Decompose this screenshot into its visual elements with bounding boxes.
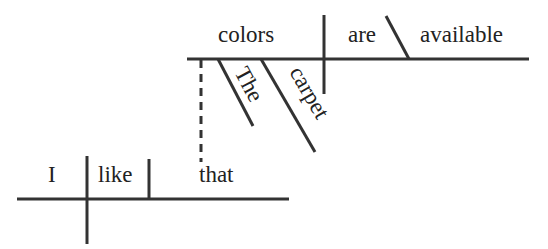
- word-like: like: [98, 162, 133, 187]
- predicate-adjective-divider: [386, 16, 409, 59]
- word-colors: colors: [218, 22, 274, 47]
- word-that: that: [199, 162, 234, 187]
- diagram-canvas: colors are available The carpet I like t…: [0, 0, 548, 249]
- word-available: available: [420, 22, 503, 47]
- sentence-diagram: colors are available The carpet I like t…: [0, 0, 548, 249]
- word-i: I: [48, 162, 56, 187]
- word-the: The: [230, 63, 269, 106]
- word-are: are: [348, 22, 376, 47]
- main-clause: I like that: [17, 156, 289, 244]
- relative-clause: colors are available The carpet: [187, 15, 529, 162]
